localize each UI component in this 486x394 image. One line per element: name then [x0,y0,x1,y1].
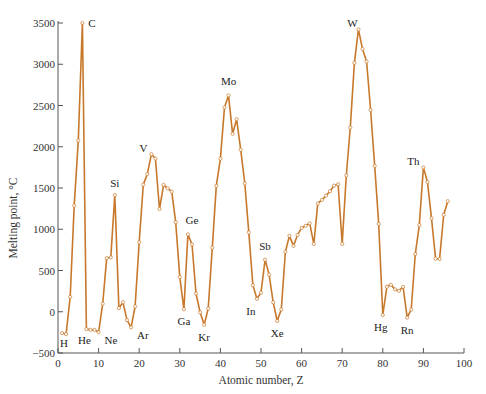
data-point [186,233,189,236]
melting-point-chart: −500050010001500200025003000350001020304… [0,0,486,394]
data-point [389,283,392,286]
data-point [276,319,279,322]
data-point [178,276,181,279]
x-tick-label: 20 [134,357,146,369]
data-point [280,308,283,311]
data-point [117,307,120,310]
data-point [292,244,295,247]
data-point [243,182,246,185]
data-point [320,198,323,201]
x-tick-label: 0 [55,357,61,369]
data-point [434,257,437,260]
data-point [296,233,299,236]
data-point [422,166,425,169]
data-point [146,173,149,176]
data-point [211,246,214,249]
data-point [121,301,124,304]
y-tick-label: 1500 [33,182,56,194]
y-tick-label: −500 [32,347,55,359]
data-point [268,273,271,276]
data-point [113,193,116,196]
data-point [129,326,132,329]
data-point [223,106,226,109]
data-point [288,234,291,237]
data-point [85,327,88,330]
data-point [158,207,161,210]
element-labels: HHeCNeSiArVGaGeKrMoInSbXeWHgRnTh [60,17,420,349]
data-point [134,305,137,308]
element-label-ge: Ge [186,214,199,226]
data-point [170,190,173,193]
data-point [337,183,340,186]
data-point [142,183,145,186]
data-point [60,332,63,335]
data-point [255,297,258,300]
data-point [203,323,206,326]
data-point [373,164,376,167]
element-label-kr: Kr [198,331,210,343]
data-point [105,257,108,260]
data-point [341,242,344,245]
data-point [349,126,352,129]
data-point [101,302,104,305]
element-label-v: V [139,142,147,154]
data-point [438,257,441,260]
x-tick-label: 80 [377,357,389,369]
x-tick-label: 50 [256,357,268,369]
data-point [251,284,254,287]
data-point [247,231,250,234]
x-axis-title: Atomic number, Z [219,374,304,387]
data-point [89,328,92,331]
data-point [442,213,445,216]
data-point [426,180,429,183]
data-point [227,94,230,97]
data-point [174,221,177,224]
data-point [402,285,405,288]
element-label-hg: Hg [374,321,388,333]
data-point [312,242,315,245]
data-point [93,328,96,331]
data-point [182,308,185,311]
x-tick-label: 30 [174,357,186,369]
element-label-ar: Ar [137,329,149,341]
data-point [235,118,238,121]
element-label-si: Si [110,177,119,189]
data-point [162,183,165,186]
data-point [199,311,202,314]
y-tick-label: 2000 [33,141,56,153]
data-point [304,224,307,227]
data-point [272,301,275,304]
data-point [109,256,112,259]
data-point [361,47,364,50]
data-point [369,108,372,111]
data-point [316,202,319,205]
data-point [308,222,311,225]
data-point [393,288,396,291]
data-point [125,319,128,322]
data-point [446,200,449,203]
data-point [328,190,331,193]
data-point [397,289,400,292]
element-label-xe: Xe [271,327,284,339]
element-label-mo: Mo [221,75,237,87]
data-point [365,60,368,63]
x-tick-label: 100 [456,357,473,369]
x-tick-label: 70 [337,357,349,369]
y-tick-label: 0 [50,306,56,318]
data-point [418,224,421,227]
x-tick-label: 40 [215,357,227,369]
data-point [194,292,197,295]
element-label-sb: Sb [259,240,271,252]
data-point [284,250,287,253]
element-label-in: In [246,305,256,317]
y-tick-label: 3000 [33,58,56,70]
element-label-th: Th [407,155,420,167]
data-point [150,153,153,156]
data-point [324,194,327,197]
data-point [138,241,141,244]
data-point [77,139,80,142]
y-axis-title: Melting point, °C [7,177,20,258]
data-point [385,285,388,288]
data-point [231,132,234,135]
data-point [406,316,409,319]
